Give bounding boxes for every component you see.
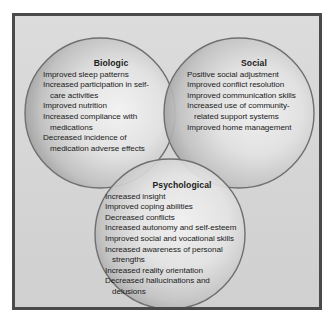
list-item: medication adverse effects xyxy=(43,144,179,155)
heading-psychological: Psychological xyxy=(105,180,259,191)
list-item: Improved home management xyxy=(187,123,321,134)
list-item: Improved coping abilities xyxy=(105,202,259,213)
heading-social: Social xyxy=(187,58,321,69)
venn-diagram-figure: Biologic Improved sleep patterns Increas… xyxy=(0,0,336,327)
list-item: Improved conflict resolution xyxy=(187,80,321,91)
list-item: medications xyxy=(43,123,179,134)
list-item: Increased autonomy and self-esteem xyxy=(105,223,259,234)
list-item: Improved communication skills xyxy=(187,91,321,102)
list-item: Increased participation in self- xyxy=(43,80,179,91)
list-item: Decreased conflicts xyxy=(105,213,259,224)
list-item: related support systems xyxy=(187,112,321,123)
list-item: Increased use of community- xyxy=(187,101,321,112)
list-item: Increased awareness of personal xyxy=(105,245,259,256)
list-item: Improved nutrition xyxy=(43,101,179,112)
list-item: Positive social adjustment xyxy=(187,70,321,81)
label-group-biologic: Biologic Improved sleep patterns Increas… xyxy=(43,58,179,154)
list-item: Increased compliance with xyxy=(43,112,179,123)
heading-biologic: Biologic xyxy=(43,58,179,69)
list-item: delusions xyxy=(105,287,259,298)
list-item: Increased reality orientation xyxy=(105,266,259,277)
list-item: Increased insight xyxy=(105,192,259,203)
figure-frame: Biologic Improved sleep patterns Increas… xyxy=(12,13,322,310)
label-group-social: Social Positive social adjustment Improv… xyxy=(187,58,321,133)
list-item: Improved social and vocational skills xyxy=(105,234,259,245)
list-item: strengths xyxy=(105,255,259,266)
label-group-psychological: Psychological Increased insight Improved… xyxy=(105,180,259,298)
list-item: Improved sleep patterns xyxy=(43,70,179,81)
list-item: care activities xyxy=(43,91,179,102)
list-item: Decreased hallucinations and xyxy=(105,276,259,287)
list-item: Decreased incidence of xyxy=(43,133,179,144)
